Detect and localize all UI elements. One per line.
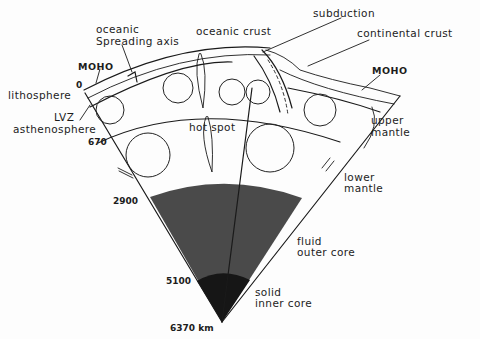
convection-cell — [163, 73, 193, 103]
continental-lithosphere-base — [288, 88, 380, 112]
tick-670-right — [322, 158, 334, 171]
label-continental-crust: continental crust — [357, 27, 453, 39]
label-moho-left: MOHO — [78, 61, 114, 72]
depth-5100: 5100 — [166, 276, 191, 286]
leader-lvz — [80, 105, 90, 120]
depth-6370: 6370 km — [170, 323, 214, 333]
leader-spreading — [122, 45, 132, 72]
label-upper-mantle-1: upper — [371, 114, 404, 126]
convection-cell — [246, 124, 294, 172]
label-oceanic-crust: oceanic crust — [196, 25, 271, 37]
depth-2900: 2900 — [113, 196, 138, 206]
label-oceanic-1: oceanic — [96, 23, 139, 35]
convection-cell — [96, 96, 124, 124]
label-asthenosphere: asthenosphere — [13, 123, 96, 135]
convection-cell — [246, 80, 270, 104]
convection-cell — [126, 133, 170, 177]
subducting-slab-top — [262, 50, 292, 108]
earth-structure-diagram: oceanic Spreading axis oceanic crust sub… — [0, 0, 480, 339]
diagram-canvas: oceanic Spreading axis oceanic crust sub… — [0, 0, 480, 339]
depth-0: 0 — [76, 80, 82, 90]
label-upper-mantle-2: mantle — [371, 126, 410, 138]
label-lithosphere: lithosphere — [8, 89, 71, 101]
label-moho-right: MOHO — [372, 65, 408, 76]
hot-spot-plume-upper — [197, 54, 205, 108]
label-hot-spot: hot spot — [189, 121, 235, 133]
label-outer-core: outer core — [297, 246, 355, 258]
convection-cell — [304, 94, 336, 126]
convection-cell — [219, 79, 245, 105]
crust-base-arc — [88, 55, 270, 98]
leader-moho-right — [362, 75, 380, 90]
label-lvz: LVZ — [54, 111, 74, 123]
label-subduction: subduction — [313, 7, 375, 19]
label-spreading-axis: Spreading axis — [96, 35, 179, 47]
depth-670: 670 — [88, 137, 107, 147]
label-inner-core: inner core — [255, 297, 312, 309]
leader-continental — [308, 40, 369, 66]
spreading-ridge — [128, 72, 137, 82]
label-lower-mantle-2: mantle — [344, 182, 383, 194]
leader-subduction — [263, 18, 341, 52]
